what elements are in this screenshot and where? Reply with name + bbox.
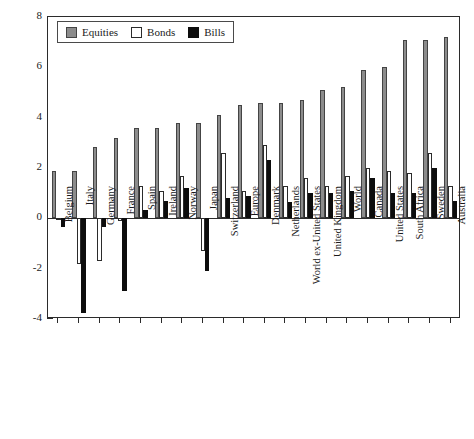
y-tick-label-wrap: -4 bbox=[0, 312, 42, 323]
x-category-label: Europe bbox=[248, 186, 261, 326]
legend-item-bills: Bills bbox=[188, 27, 225, 38]
x-category-label: South Africa bbox=[413, 186, 426, 326]
x-tick bbox=[181, 318, 182, 323]
x-category-label: United States bbox=[393, 186, 406, 326]
x-tick bbox=[346, 318, 347, 323]
y-tick-label: -2 bbox=[4, 262, 42, 273]
x-category-label: Canada bbox=[372, 186, 385, 326]
legend-item-bonds: Bonds bbox=[131, 27, 175, 38]
x-category-label: Japan bbox=[207, 186, 220, 326]
x-category-label: Ireland bbox=[166, 186, 179, 326]
y-tick-label: 4 bbox=[4, 111, 42, 122]
legend-label: Bills bbox=[204, 27, 225, 38]
x-tick bbox=[429, 318, 430, 323]
chart-legend: EquitiesBondsBills bbox=[57, 21, 234, 43]
x-tick bbox=[450, 318, 451, 323]
y-tick-label-wrap: 4 bbox=[0, 111, 42, 122]
y-tick-label-wrap: 8 bbox=[0, 10, 42, 21]
x-tick bbox=[326, 318, 327, 323]
legend-item-equities: Equities bbox=[66, 27, 118, 38]
y-tick--4 bbox=[47, 318, 53, 319]
x-category-label: Norway bbox=[186, 186, 199, 326]
x-category-label: Netherlands bbox=[289, 186, 302, 326]
y-tick-label: 0 bbox=[4, 211, 42, 222]
x-tick bbox=[367, 318, 368, 323]
x-tick bbox=[78, 318, 79, 323]
legend-swatch-equities-icon bbox=[66, 27, 77, 38]
x-category-label: World ex-United States bbox=[310, 186, 323, 326]
x-tick bbox=[388, 318, 389, 323]
x-category-label: Germany bbox=[104, 186, 117, 326]
x-tick bbox=[57, 318, 58, 323]
x-tick bbox=[305, 318, 306, 323]
x-tick bbox=[243, 318, 244, 323]
x-category-label: Sweden bbox=[434, 186, 447, 326]
x-tick bbox=[202, 318, 203, 323]
bar-equities bbox=[52, 171, 56, 219]
x-category-label: France bbox=[124, 186, 137, 326]
x-tick bbox=[264, 318, 265, 323]
x-tick bbox=[119, 318, 120, 323]
x-tick bbox=[408, 318, 409, 323]
x-tick bbox=[140, 318, 141, 323]
y-tick-label-wrap: -2 bbox=[0, 262, 42, 273]
x-tick bbox=[161, 318, 162, 323]
y-tick-label-wrap: 0 bbox=[0, 211, 42, 222]
x-category-label: Italy bbox=[83, 186, 96, 326]
y-tick-label-wrap: 6 bbox=[0, 60, 42, 71]
legend-label: Equities bbox=[82, 27, 118, 38]
legend-swatch-bills-icon bbox=[188, 27, 199, 38]
y-tick-label: 8 bbox=[4, 10, 42, 21]
x-category-label: United Kingdom bbox=[331, 186, 344, 326]
y-tick-label: 6 bbox=[4, 60, 42, 71]
x-tick bbox=[284, 318, 285, 323]
x-category-label: Denmark bbox=[269, 186, 282, 326]
x-tick bbox=[99, 318, 100, 323]
x-category-label: Australia bbox=[455, 186, 468, 326]
x-tick bbox=[223, 318, 224, 323]
legend-label: Bonds bbox=[147, 27, 175, 38]
chart-root: Return (%) -4-202468 EquitiesBondsBills … bbox=[0, 0, 474, 439]
x-category-label: World bbox=[351, 186, 364, 326]
y-tick-label: 2 bbox=[4, 161, 42, 172]
x-category-label: Belgium bbox=[62, 186, 75, 326]
y-tick-label: -4 bbox=[4, 312, 42, 323]
x-category-label: Spain bbox=[145, 186, 158, 326]
y-tick-label-wrap: 2 bbox=[0, 161, 42, 172]
x-category-label: Switzerland bbox=[228, 186, 241, 326]
legend-swatch-bonds-icon bbox=[131, 27, 142, 38]
